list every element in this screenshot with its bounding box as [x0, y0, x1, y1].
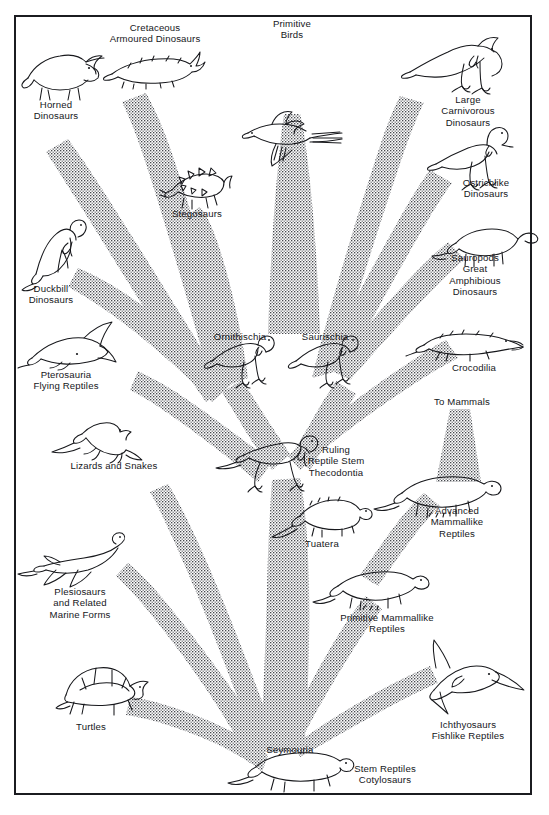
reptile-evolution-figure: Cretaceous Armoured Dinosaurs Primitive … [0, 0, 549, 815]
plate-border [14, 15, 532, 795]
